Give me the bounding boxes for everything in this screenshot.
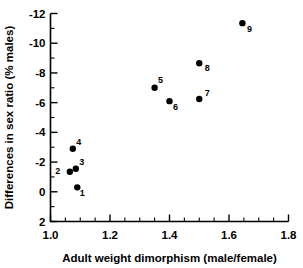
y-axis-title: Differences in sex ratio (% males) [3, 26, 15, 210]
scatter-plot-figure: HAS BEEN IN THE MONKEY/AS -12-10-8-6-4-2… [0, 0, 303, 268]
y-tick-label: -12 [29, 8, 46, 20]
data-point-label: 4 [76, 137, 81, 147]
data-point [67, 169, 73, 175]
y-tick-label: -8 [35, 67, 46, 79]
data-point-label: 2 [55, 166, 60, 176]
data-point [196, 96, 202, 102]
x-tick-label: 1.0 [43, 229, 59, 241]
x-axis-title: Adult weight dimorphism (male/female) [62, 252, 277, 264]
data-point [70, 146, 76, 152]
y-tick-label: 2 [39, 216, 45, 228]
data-point-label: 6 [173, 102, 178, 112]
data-point [166, 98, 172, 104]
tick-labels-layer: -12-10-8-6-4-2021.01.21.41.61.8 [29, 8, 297, 241]
data-point-label: 9 [247, 24, 252, 34]
ticks-layer [51, 14, 289, 222]
y-tick-label: -4 [35, 126, 46, 138]
x-tick-label: 1.2 [102, 229, 118, 241]
data-point-label: 1 [80, 188, 85, 198]
data-point-label: 5 [158, 75, 163, 85]
axis-spines [51, 14, 289, 222]
data-point [239, 20, 245, 26]
axes-layer [51, 14, 289, 222]
plot-canvas: -12-10-8-6-4-2021.01.21.41.61.8 12345678… [0, 0, 303, 268]
y-tick-label: 0 [39, 186, 45, 198]
x-tick-label: 1.6 [221, 229, 237, 241]
data-point-label: 8 [205, 63, 210, 73]
data-points-layer: 123456789 [55, 20, 252, 198]
y-tick-label: -10 [29, 37, 46, 49]
data-point [196, 60, 202, 66]
y-tick-label: -2 [35, 156, 45, 168]
data-point [151, 85, 157, 91]
x-tick-label: 1.8 [281, 229, 298, 241]
x-tick-label: 1.4 [162, 229, 179, 241]
data-point-label: 3 [79, 157, 84, 167]
data-point [73, 166, 79, 172]
data-point-label: 7 [205, 88, 210, 98]
y-tick-label: -6 [35, 97, 45, 109]
